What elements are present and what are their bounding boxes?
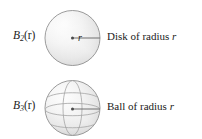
figure-row-ball: B3(r) (0, 78, 202, 138)
ball-center-dot (71, 108, 74, 111)
caption-ball: Ball of radius r (107, 100, 174, 113)
ball-svg (43, 78, 103, 138)
notation-label-ball: B3(r) (13, 99, 47, 115)
ball-shape (43, 78, 103, 138)
disk-radius-label: r (78, 33, 82, 43)
notation-label-disk: B2(r) (13, 29, 47, 45)
caption-ball-variable: r (170, 100, 174, 112)
figure-row-disk: B2(r) (0, 8, 202, 68)
notation-argument-ball: (r) (24, 99, 35, 111)
disk-center-dot (71, 37, 74, 40)
disk-svg (43, 8, 103, 68)
disk-shape (43, 8, 103, 68)
notation-base-disk: B (13, 29, 20, 41)
caption-ball-text: Ball of radius (107, 100, 170, 112)
notation-argument-disk: (r) (24, 29, 35, 41)
caption-disk: Disk of radius r (107, 30, 176, 43)
notation-base-ball: B (13, 99, 20, 111)
caption-disk-text: Disk of radius (107, 30, 172, 42)
figure-canvas: B2(r) (0, 0, 202, 139)
caption-disk-variable: r (172, 30, 176, 42)
